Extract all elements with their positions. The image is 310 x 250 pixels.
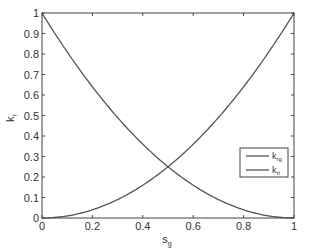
y-tick-label: 0.7 bbox=[24, 69, 39, 81]
y-tick-label: 0.9 bbox=[24, 28, 39, 40]
y-tick-label: 0.5 bbox=[24, 110, 39, 122]
series-lines bbox=[42, 13, 294, 218]
y-tick-label: 0 bbox=[33, 212, 39, 224]
x-tick-label: 1 bbox=[291, 220, 297, 232]
x-axis-ticks: 00.20.40.60.81 bbox=[39, 13, 297, 232]
y-axis-label: kr bbox=[4, 113, 18, 122]
series-line-k-rg bbox=[42, 13, 294, 218]
y-tick-label: 0.2 bbox=[24, 171, 39, 183]
x-tick-label: 0.6 bbox=[186, 220, 201, 232]
y-axis-ticks: 00.10.20.30.40.50.60.70.80.91 bbox=[24, 7, 294, 224]
y-tick-label: 0.3 bbox=[24, 151, 39, 163]
plot-frame bbox=[42, 13, 294, 218]
x-axis-label: sg bbox=[162, 233, 172, 248]
x-tick-label: 0 bbox=[39, 220, 45, 232]
legend: krgkrl bbox=[240, 148, 288, 177]
x-tick-label: 0.4 bbox=[135, 220, 150, 232]
legend-box bbox=[240, 148, 288, 177]
y-tick-label: 0.1 bbox=[24, 192, 39, 204]
x-tick-label: 0.8 bbox=[236, 220, 251, 232]
y-tick-label: 0.4 bbox=[24, 130, 39, 142]
plot-area bbox=[42, 13, 294, 218]
y-tick-label: 1 bbox=[33, 7, 39, 19]
series-line-k-rl bbox=[42, 13, 294, 218]
relative-permeability-chart: 00.20.40.60.81 00.10.20.30.40.50.60.70.8… bbox=[0, 0, 310, 250]
y-tick-label: 0.6 bbox=[24, 89, 39, 101]
x-tick-label: 0.2 bbox=[85, 220, 100, 232]
y-tick-label: 0.8 bbox=[24, 48, 39, 60]
